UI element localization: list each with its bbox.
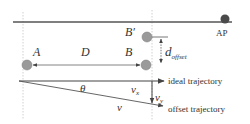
distance-label: D (80, 45, 90, 59)
offset-trajectory-line (19, 81, 163, 106)
vy-label: vy (155, 91, 164, 105)
ap-node (221, 15, 230, 24)
velocity-label: v (117, 101, 122, 113)
a-node (22, 60, 32, 70)
offset-trajectory-label: offset trajectory (168, 104, 226, 114)
vx-label: vx (131, 83, 140, 97)
a-label: A (32, 45, 41, 59)
ideal-trajectory-label: ideal trajectory (168, 76, 223, 86)
b-prime-node (142, 32, 152, 42)
b-label: B (125, 45, 133, 59)
offset-label: doffset (165, 44, 188, 61)
b-node (141, 60, 151, 70)
theta-label: θ (80, 82, 86, 94)
ap-label: AP (216, 28, 228, 38)
b-prime-label: B′ (125, 25, 135, 39)
trajectory-diagram: AP B′ doffset A D B ideal trajectory off… (0, 0, 250, 124)
